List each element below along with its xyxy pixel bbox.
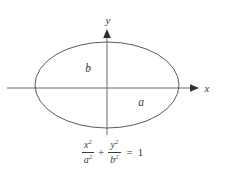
- denominator-exponent-b: 2: [115, 153, 118, 160]
- equation-row: x2 a2 + y2 b2 = 1: [82, 139, 143, 166]
- arrow-right-icon: [190, 84, 199, 92]
- fraction-denominator-b: b2: [108, 154, 120, 166]
- ellipse-figure: x y b a x2 a2 + y2 b2 = 1: [0, 0, 225, 171]
- x-axis-label: x: [204, 82, 210, 94]
- fraction-y-over-b: y2 b2: [108, 139, 120, 166]
- ellipse-equation: x2 a2 + y2 b2 = 1: [0, 139, 225, 166]
- equals-sign: =: [124, 147, 133, 158]
- semi-major-axis-label: a: [138, 96, 144, 108]
- fraction-numerator-y: y2: [109, 139, 121, 151]
- equation-right-hand-side: 1: [136, 147, 144, 158]
- y-axis-label: y: [105, 14, 111, 26]
- fraction-denominator-a: a2: [82, 154, 94, 166]
- fraction-x-over-a: x2 a2: [82, 139, 94, 166]
- fraction-numerator-x: x2: [82, 139, 94, 151]
- arrow-up-icon: [103, 29, 111, 38]
- denominator-exponent-a: 2: [89, 153, 92, 160]
- numerator-exponent-x: 2: [89, 138, 92, 145]
- numerator-exponent-y: 2: [115, 138, 118, 145]
- semi-minor-axis-label: b: [85, 62, 91, 74]
- plus-operator: +: [97, 147, 105, 158]
